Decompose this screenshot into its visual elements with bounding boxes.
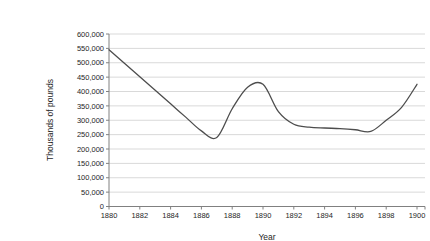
y-tick-label: 550,000 (77, 44, 104, 53)
x-tick-label: 1880 (101, 211, 118, 220)
x-axis-title: Year (258, 232, 275, 241)
y-tick-label: 450,000 (77, 73, 104, 82)
x-tick-label: 1888 (224, 211, 241, 220)
x-tick-label: 1892 (285, 211, 302, 220)
plot-area: 050,000100,000150,000200,000250,000300,0… (77, 30, 425, 220)
y-tick-label: 400,000 (77, 87, 104, 96)
y-tick-label: 250,000 (77, 130, 104, 139)
y-tick-label: 350,000 (77, 102, 104, 111)
y-tick-label: 500,000 (77, 58, 104, 67)
x-tick-label: 1900 (409, 211, 426, 220)
y-tick-label: 150,000 (77, 159, 104, 168)
x-tick-label: 1884 (162, 211, 179, 220)
y-tick-label: 600,000 (77, 30, 104, 39)
x-tick-label: 1882 (131, 211, 148, 220)
x-tick-label: 1896 (347, 211, 364, 220)
x-tick-label: 1898 (378, 211, 395, 220)
y-tick-label: 50,000 (81, 188, 104, 197)
x-tick-label: 1894 (316, 211, 333, 220)
y-tick-label: 200,000 (77, 145, 104, 154)
y-axis-title: Thousands of pounds (45, 79, 55, 161)
x-tick-label: 1886 (193, 211, 210, 220)
line-chart: 050,000100,000150,000200,000250,000300,0… (40, 16, 430, 241)
y-tick-label: 300,000 (77, 116, 104, 125)
x-tick-label: 1890 (255, 211, 272, 220)
chart-canvas: 050,000100,000150,000200,000250,000300,0… (40, 16, 430, 241)
y-tick-label: 100,000 (77, 173, 104, 182)
